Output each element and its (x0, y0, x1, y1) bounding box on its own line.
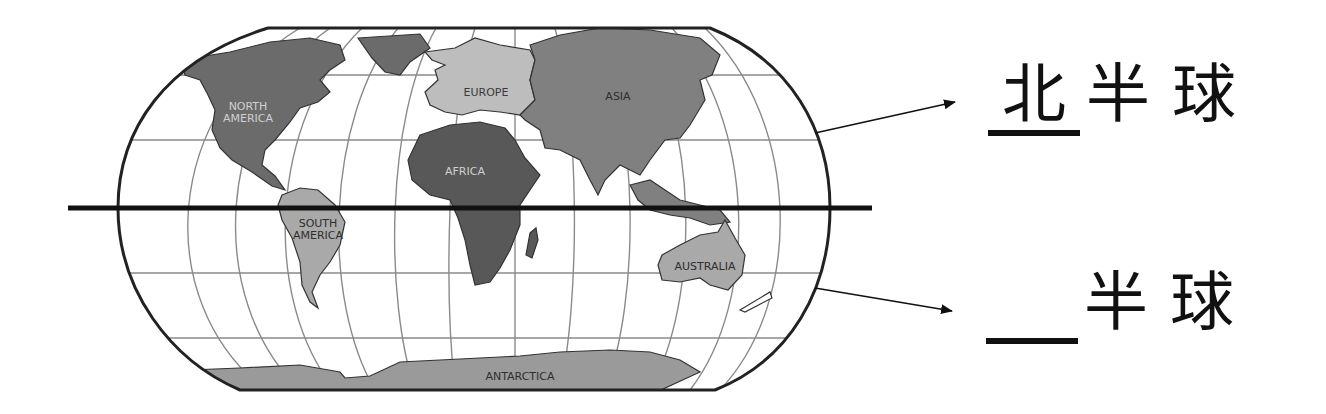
label-south-america: SOUTHAMERICA (293, 217, 344, 242)
label-australia: AUSTRALIA (675, 260, 736, 273)
arrow-southern (815, 288, 952, 311)
northern-hemisphere-label: 北 半球 (988, 62, 1258, 136)
northern-blank: 北 (988, 62, 1080, 136)
arrow-northern (815, 102, 955, 133)
continent-europe (425, 38, 535, 115)
southern-hemisphere-label[interactable]: 半球 (986, 270, 1256, 344)
northern-suffix: 半球 (1086, 62, 1258, 136)
label-asia: ASIA (605, 90, 631, 103)
southern-suffix: 半球 (1084, 270, 1256, 344)
label-antarctica: ANTARCTICA (485, 370, 555, 383)
label-africa: AFRICA (445, 165, 485, 178)
label-north-america: NORTHAMERICA (223, 100, 274, 125)
southern-blank-answer-field[interactable] (986, 270, 1078, 344)
label-europe: EUROPE (464, 86, 509, 99)
